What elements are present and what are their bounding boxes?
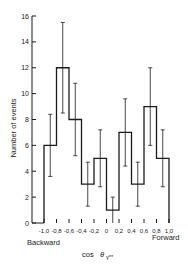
x-tick-label: 0,2 <box>115 228 124 234</box>
y-tick-label: 8 <box>25 116 29 123</box>
x-tick-label: 0,4 <box>127 228 136 234</box>
x-tick-label: 0 <box>105 228 109 234</box>
svg-text:θ: θ <box>100 250 104 259</box>
histogram-chart: 0246810121416 -1,0-0,8-0,6-0,4-0,200,20,… <box>0 0 188 266</box>
x-tick-label: 0,6 <box>140 228 149 234</box>
y-tick-label: 10 <box>21 90 29 97</box>
x-tick-label: -0,8 <box>51 228 62 234</box>
x-tick-label: -0,6 <box>64 228 75 234</box>
y-tick-label: 6 <box>25 142 29 149</box>
y-tick-label: 14 <box>21 38 29 45</box>
x-tick-label: -0,4 <box>76 228 87 234</box>
y-tick-label: 0 <box>25 220 29 227</box>
x-tick-label: -0,2 <box>89 228 100 234</box>
forward-label: Forward <box>152 233 180 242</box>
svg-text:γ**: γ** <box>106 254 114 260</box>
y-tick-label: 16 <box>21 13 29 20</box>
y-tick-label: 4 <box>25 168 29 175</box>
svg-text:cos: cos <box>82 250 94 259</box>
backward-label: Backward <box>27 238 60 247</box>
y-axis-ticks: 0246810121416 <box>21 13 36 227</box>
y-tick-label: 12 <box>21 64 29 71</box>
x-tick-label: -1,0 <box>39 228 50 234</box>
x-axis-label: cos θ γ** <box>82 250 114 260</box>
y-tick-label: 2 <box>25 194 29 201</box>
x-axis-ticks: -1,0-0,8-0,6-0,4-0,200,20,40,60,81,0 <box>39 219 174 234</box>
y-axis-label: Number of events <box>9 98 18 157</box>
